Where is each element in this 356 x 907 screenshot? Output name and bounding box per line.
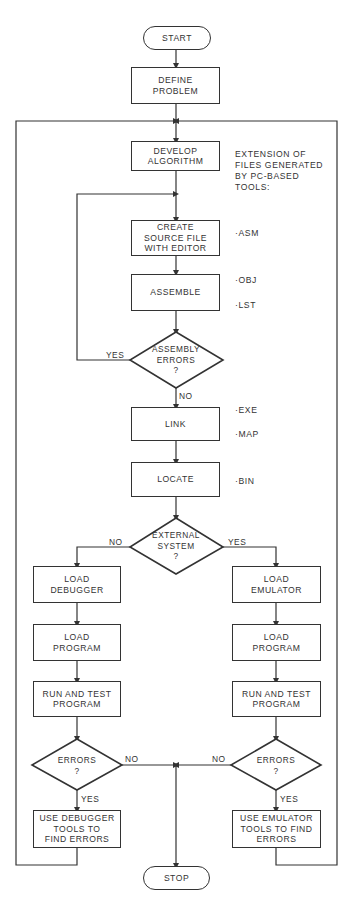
define-problem-label: DEFINE PROBLEM [153,75,199,96]
err-right-no-label: NO [212,754,226,764]
use-emulator-box: USE EMULATOR TOOLS TO FIND ERRORS [232,810,321,848]
errors-right-label: ERRORS ? [246,755,306,776]
start-label: START [162,33,192,44]
run-test-left-box: RUN AND TEST PROGRAM [33,681,121,717]
stop-terminal: STOP [143,866,210,890]
ext-bin: ·BIN [235,476,255,486]
develop-algorithm-label: DEVELOP ALGORITHM [148,146,204,167]
ext-no-label: NO [109,537,123,547]
asm-no-label: NO [179,391,193,401]
ext-obj: ·OBJ [235,275,257,285]
err-left-no-label: NO [125,754,139,764]
load-debugger-label: LOAD DEBUGGER [50,574,103,595]
locate-label: LOCATE [157,474,194,485]
external-system-label: EXTERNAL SYSTEM ? [140,530,212,562]
ext-lst: ·LST [235,300,256,310]
err-right-yes-label: YES [280,794,298,804]
load-program-left-label: LOAD PROGRAM [53,632,101,653]
link-box: LINK [131,407,220,441]
create-source-file-label: CREATE SOURCE FILE WITH EDITOR [144,222,207,254]
link-label: LINK [165,419,186,430]
extension-note: EXTENSION OF FILES GENERATED BY PC-BASED… [235,149,323,193]
run-test-right-box: RUN AND TEST PROGRAM [232,681,321,717]
ext-asm: ·ASM [235,228,259,238]
assemble-label: ASSEMBLE [150,287,200,298]
use-debugger-box: USE DEBUGGER TOOLS TO FIND ERRORS [33,810,121,848]
ext-exe: ·EXE [235,405,257,415]
ext-map: ·MAP [235,429,259,439]
use-debugger-label: USE DEBUGGER TOOLS TO FIND ERRORS [39,813,114,845]
start-terminal: START [143,26,211,50]
load-debugger-box: LOAD DEBUGGER [33,566,121,603]
stop-label: STOP [164,873,189,884]
asm-yes-label: YES [106,350,124,360]
assembly-errors-label: ASSEMBLY ERRORS ? [140,344,212,376]
load-emulator-label: LOAD EMULATOR [251,574,302,595]
assemble-box: ASSEMBLE [131,274,220,311]
run-test-right-label: RUN AND TEST PROGRAM [242,689,311,710]
load-program-left-box: LOAD PROGRAM [33,624,121,661]
create-source-file-box: CREATE SOURCE FILE WITH EDITOR [131,220,220,256]
err-left-yes-label: YES [81,794,99,804]
use-emulator-label: USE EMULATOR TOOLS TO FIND ERRORS [240,813,313,845]
define-problem-box: DEFINE PROBLEM [131,67,220,104]
locate-box: LOCATE [131,462,220,497]
load-program-right-box: LOAD PROGRAM [232,624,321,661]
ext-yes-label: YES [228,537,246,547]
load-emulator-box: LOAD EMULATOR [232,566,321,603]
develop-algorithm-box: DEVELOP ALGORITHM [131,141,220,171]
errors-left-label: ERRORS ? [47,755,107,776]
load-program-right-label: LOAD PROGRAM [253,632,301,653]
run-test-left-label: RUN AND TEST PROGRAM [43,689,112,710]
